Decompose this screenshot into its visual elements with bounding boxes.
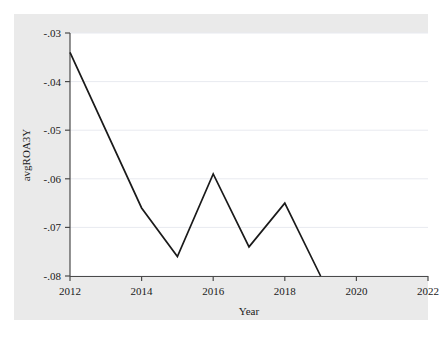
y-tick-label: -.05 xyxy=(44,124,62,136)
x-axis-title: Year xyxy=(239,305,260,317)
x-tick-label: 2018 xyxy=(274,285,297,297)
plot-area xyxy=(70,33,428,276)
line-chart: -.03-.04-.05-.06-.07-.08 201220142016201… xyxy=(0,0,448,337)
y-tick-label: -.04 xyxy=(44,76,62,88)
x-tick-label: 2014 xyxy=(131,285,154,297)
y-axis-ticks xyxy=(65,33,70,276)
x-axis-tick-labels: 201220142016201820202022 xyxy=(59,285,439,297)
y-tick-label: -.03 xyxy=(44,27,62,39)
x-tick-label: 2012 xyxy=(59,285,81,297)
x-tick-label: 2020 xyxy=(345,285,368,297)
chart-container: -.03-.04-.05-.06-.07-.08 201220142016201… xyxy=(0,0,448,337)
y-axis-tick-labels: -.03-.04-.05-.06-.07-.08 xyxy=(44,27,62,282)
y-axis-title: avgROA3Y xyxy=(20,129,32,182)
y-tick-label: -.08 xyxy=(44,270,62,282)
y-tick-label: -.06 xyxy=(44,173,62,185)
y-tick-label: -.07 xyxy=(44,221,62,233)
x-tick-label: 2022 xyxy=(417,285,439,297)
x-tick-label: 2016 xyxy=(202,285,225,297)
